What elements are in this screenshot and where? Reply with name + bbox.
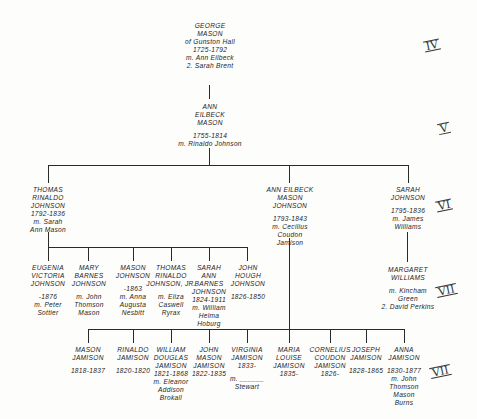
connector-line (88, 329, 404, 330)
connector-line (289, 165, 290, 183)
connector-line (247, 247, 248, 261)
connector-line (171, 247, 172, 261)
connector-line (407, 232, 408, 262)
connector-line (88, 329, 89, 343)
connector-line (48, 232, 49, 247)
generation-marker-v: V (437, 122, 451, 135)
generation-marker-iv: IV (423, 38, 441, 52)
generation-marker-viii: VII (429, 364, 451, 379)
connector-line (133, 247, 134, 261)
connector-line (289, 238, 290, 329)
person-mary-barnes-johnson: Mary Barnes Johnson m. John Thomson Maso… (64, 264, 114, 317)
cut-off-caption (35, 410, 355, 419)
person-ann-eilbeck-mason: Ann Eilbeck Mason 1755-1814 m. Rinaldo J… (170, 103, 250, 148)
person-george-mason: George Mason of Gunston Hall 1725-1792 m… (170, 22, 250, 70)
person-sarah-johnson: Sarah Johnson 1795-1836 m. James William… (368, 186, 448, 231)
connector-line (209, 85, 210, 99)
connector-line (209, 148, 210, 165)
connector-line (48, 165, 49, 183)
connector-line (133, 329, 134, 343)
connector-line (48, 165, 409, 166)
person-anna-jamison: Anna Jamison 1830-1877 m. John Thomson M… (380, 346, 428, 407)
connector-line (171, 329, 172, 343)
connector-line (366, 329, 367, 343)
person-margaret-williams: Margaret Williams m. Kincham Green 2. Da… (370, 266, 446, 311)
connector-line (289, 329, 290, 343)
connector-line (247, 329, 248, 343)
person-mason-jamison: Mason Jamison 1818-1837 (64, 346, 112, 375)
connector-line (209, 329, 210, 343)
person-ann-eilbeck-mason-johnson: Ann Eilbeck Mason Johnson 1793-1843 m. C… (250, 186, 330, 247)
person-john-hough-johnson: John Hough Johnson 1826-1850 (224, 264, 272, 301)
connector-line (330, 329, 331, 343)
connector-line (209, 247, 210, 261)
connector-line (404, 329, 405, 343)
connector-line (88, 247, 89, 261)
connector-line (48, 247, 248, 248)
person-thomas-rinaldo-johnson: Thomas Rinaldo Johnson 1792-1836 m. Sara… (8, 186, 88, 234)
connector-line (48, 247, 49, 261)
connector-line (408, 165, 409, 183)
